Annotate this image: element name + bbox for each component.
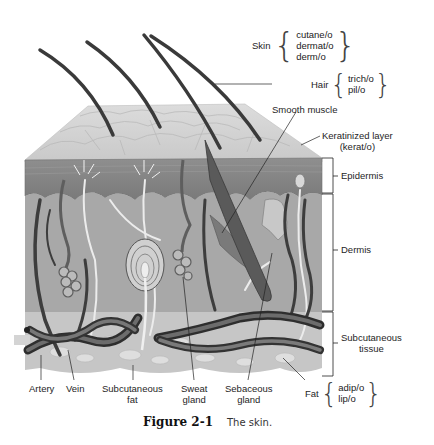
close-brace: } xyxy=(365,380,382,406)
hair-root-1: trich/o xyxy=(348,73,374,84)
subcutaneous-tissue-label: Subcutaneous tissue xyxy=(341,332,402,354)
sweat-gland-line1: Sweat xyxy=(181,383,207,394)
subcutaneous-tissue-line2: tissue xyxy=(341,343,402,354)
layer-brackets xyxy=(322,158,338,376)
skin-root-2: dermat/o xyxy=(296,40,334,51)
epidermis-layer xyxy=(25,158,322,200)
skin-root-3: derm/o xyxy=(296,51,334,62)
vein-label: Vein xyxy=(66,383,85,394)
sweat-gland-line2: gland xyxy=(181,394,207,405)
fat-root-1: adip/o xyxy=(338,382,364,393)
close-brace: } xyxy=(335,28,357,62)
sebaceous-gland-label: Sebaceous gland xyxy=(225,383,273,405)
fat-term: Fat xyxy=(305,388,319,399)
subcutaneous-fat-label: Subcutaneous fat xyxy=(102,383,163,405)
sebaceous-gland-line2: gland xyxy=(225,394,273,405)
skin-root-1: cutane/o xyxy=(296,29,334,40)
open-brace: { xyxy=(273,28,295,62)
dermis-label: Dermis xyxy=(341,244,371,255)
artery-label: Artery xyxy=(29,383,54,394)
fat-root-2: lip/o xyxy=(338,393,364,404)
fat-label: Fat { adip/o lip/o } xyxy=(305,380,382,406)
subcutaneous-tissue-line1: Subcutaneous xyxy=(341,332,402,343)
hair-term: Hair xyxy=(311,79,328,90)
keratinized-layer-line2: (kerat/o) xyxy=(322,141,393,152)
sebaceous-gland-line1: Sebaceous xyxy=(225,383,273,394)
close-brace: } xyxy=(375,71,392,97)
keratinized-layer-line1: Keratinized layer xyxy=(322,130,393,141)
sweat-gland-label: Sweat gland xyxy=(181,383,207,405)
figure-caption-text: The skin. xyxy=(227,417,272,428)
open-brace: { xyxy=(330,71,347,97)
open-brace: { xyxy=(321,380,338,406)
epidermis-label: Epidermis xyxy=(341,170,383,181)
figure-caption: Figure 2-1The skin. xyxy=(143,412,272,430)
figure-number: Figure 2-1 xyxy=(143,415,213,429)
skin-label: Skin { cutane/o dermat/o derm/o } xyxy=(252,28,356,62)
keratinized-layer-label: Keratinized layer (kerat/o) xyxy=(322,130,393,152)
skin-term: Skin xyxy=(252,40,270,51)
subcutaneous-fat-line2: fat xyxy=(102,394,163,405)
hair-root-2: pil/o xyxy=(348,84,374,95)
smooth-muscle-label: Smooth muscle xyxy=(272,104,337,115)
hair-label: Hair { trich/o pil/o } xyxy=(311,71,391,97)
subcutaneous-fat-line1: Subcutaneous xyxy=(102,383,163,394)
